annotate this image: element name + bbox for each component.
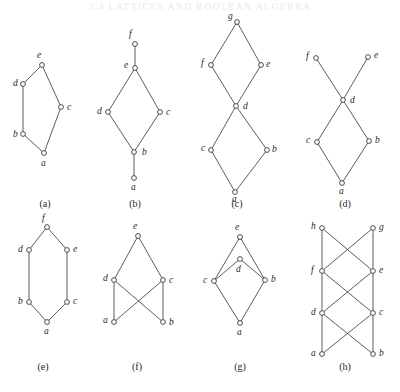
node-e	[371, 269, 376, 274]
node-label-e: e	[73, 244, 77, 254]
node-b	[132, 150, 137, 155]
hasse-diagram-g: edcba(g)	[203, 222, 276, 373]
node-label-a: a	[311, 348, 316, 358]
edge-d-e	[23, 65, 42, 84]
edge-group	[211, 22, 267, 192]
node-g	[235, 20, 240, 25]
edge-group	[108, 44, 160, 178]
edge-b-d	[240, 259, 265, 280]
edge-c-d	[211, 106, 236, 150]
edge-a-b	[29, 302, 47, 322]
node-label-b: b	[272, 144, 277, 154]
node-c	[212, 279, 217, 284]
node-label-h: h	[311, 221, 316, 231]
node-a	[45, 320, 50, 325]
edge-a-c	[214, 281, 240, 323]
node-label-e: e	[379, 265, 383, 275]
node-d	[238, 257, 243, 262]
edge-c-e	[42, 65, 61, 107]
node-c	[371, 311, 376, 316]
node-label-d: d	[97, 106, 102, 116]
node-e	[133, 66, 138, 71]
node-f	[320, 269, 325, 274]
node-d	[21, 82, 26, 87]
node-label-a: a	[131, 182, 136, 192]
edge-d-e	[108, 68, 135, 112]
node-label-c: c	[203, 275, 208, 285]
node-b	[263, 278, 268, 283]
edge-a-b	[235, 150, 267, 192]
node-c	[158, 110, 163, 115]
node-label-g: g	[228, 11, 233, 21]
edge-d-f	[316, 58, 343, 100]
panel-caption-c: (c)	[231, 198, 242, 210]
edge-d-e	[236, 65, 261, 106]
node-c	[161, 278, 166, 283]
node-a	[132, 176, 137, 181]
node-b	[27, 300, 32, 305]
node-a	[238, 321, 243, 326]
node-a	[340, 181, 345, 186]
node-f	[45, 225, 50, 230]
panel-caption-f: (f)	[132, 361, 142, 373]
node-label-d: d	[311, 307, 316, 317]
node-label-c: c	[166, 107, 171, 117]
edge-a-b	[342, 141, 369, 183]
edge-c-d	[317, 100, 343, 142]
edge-group	[114, 236, 163, 322]
node-b	[21, 132, 26, 137]
node-label-d: d	[350, 95, 355, 105]
node-b	[265, 148, 270, 153]
node-label-f: f	[129, 29, 133, 39]
node-label-e: e	[124, 60, 128, 70]
edge-f-g	[211, 22, 237, 65]
node-label-a: a	[44, 326, 49, 336]
edge-b-d	[343, 100, 369, 141]
node-label-d: d	[13, 78, 18, 88]
node-label-e: e	[266, 59, 270, 69]
node-e	[259, 63, 264, 68]
node-d	[27, 248, 32, 253]
edge-b-e	[240, 237, 265, 280]
edge-a-c	[211, 150, 235, 192]
hasse-diagram-a: edcba(a)	[13, 50, 72, 210]
node-label-a: a	[339, 186, 344, 196]
hasse-diagram-b: fedcba(b)	[97, 29, 171, 210]
edge-d-f	[29, 227, 47, 250]
edge-group	[316, 57, 369, 183]
node-c	[59, 105, 64, 110]
node-d	[234, 104, 239, 109]
edge-c-e	[135, 68, 160, 112]
node-label-f: f	[42, 213, 46, 223]
edge-b-d	[108, 112, 134, 152]
edge-d-f	[211, 65, 236, 106]
node-d	[106, 110, 111, 115]
node-label-d: d	[236, 264, 241, 274]
node-label-b: b	[142, 147, 147, 157]
edge-c-e	[138, 236, 163, 280]
node-label-b: b	[13, 129, 18, 139]
node-label-b: b	[271, 274, 276, 284]
edge-d-e	[114, 236, 138, 280]
edge-e-f	[47, 227, 67, 250]
node-f	[314, 56, 319, 61]
edge-b-c	[134, 112, 160, 152]
node-label-c: c	[306, 135, 311, 145]
hasse-diagram-d: fedcba(d)	[306, 50, 380, 210]
node-c	[65, 300, 70, 305]
node-e	[366, 55, 371, 60]
node-a	[112, 320, 117, 325]
edge-group	[29, 227, 67, 322]
node-label-b: b	[379, 348, 384, 358]
edge-a-b	[23, 134, 44, 153]
node-label-f: f	[201, 58, 205, 68]
node-g	[371, 226, 376, 231]
node-e	[238, 235, 243, 240]
node-label-c: c	[379, 307, 384, 317]
node-label-e: e	[37, 50, 41, 60]
node-c	[209, 148, 214, 153]
node-label-f: f	[306, 51, 310, 61]
node-e	[136, 234, 141, 239]
node-label-c: c	[169, 275, 174, 285]
node-label-d: d	[103, 273, 108, 283]
